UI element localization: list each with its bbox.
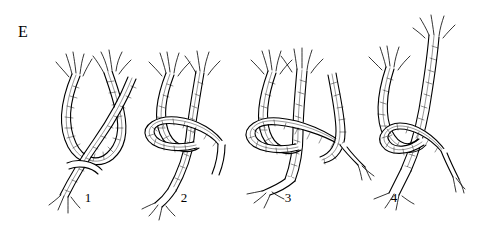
step-label-3: 3 [278,191,298,204]
knot-illustration-svg [0,0,492,229]
step-label-1: 1 [78,191,98,204]
knot-stage-1 [49,50,136,213]
knot-figure: E [0,0,492,229]
knot-stage-3 [246,48,374,208]
step-label-4: 4 [384,191,404,204]
step-label-2: 2 [174,191,194,204]
knot-stage-4 [369,15,465,210]
